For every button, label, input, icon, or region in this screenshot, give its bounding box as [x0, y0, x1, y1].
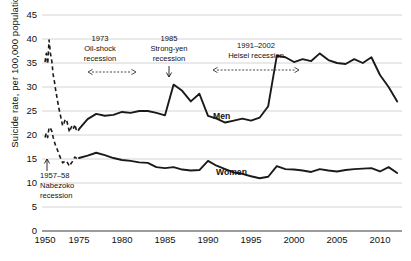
- x-tick-label: 1985: [145, 234, 185, 245]
- annotation-oil-shock-line2: recession: [63, 54, 137, 64]
- annotation-nabezoko-line1: Nabezoko: [40, 181, 74, 191]
- annotation-oil-shock: 1973 Oil-shock recession: [63, 34, 137, 65]
- plot-area: [0, 0, 411, 261]
- x-tick-label: 2000: [274, 234, 314, 245]
- y-tick-label: 15: [11, 153, 37, 164]
- x-tick-label: 1975: [59, 234, 99, 245]
- y-tick-label: 35: [11, 57, 37, 68]
- annotation-nabezoko-year: 1957–58: [40, 171, 74, 181]
- annotation-strong-yen-year: 1985: [138, 34, 200, 44]
- annotation-strong-yen-line1: Strong-yen: [138, 44, 200, 54]
- y-tick-label: 40: [11, 33, 37, 44]
- x-tick-label: 2005: [317, 234, 357, 245]
- y-tick-label: 25: [11, 105, 37, 116]
- x-tick-label: 1980: [102, 234, 142, 245]
- y-tick-label: 45: [11, 9, 37, 20]
- suicide-rate-chart: Suicide rate, per 100,000 population 051…: [0, 0, 411, 261]
- x-tick-label: 2010: [360, 234, 400, 245]
- annotation-heisei: 1991–2002 Heisei recession: [210, 41, 302, 61]
- annotation-nabezoko-line2: recession: [40, 191, 74, 201]
- annotation-strong-yen: 1985 Strong-yen recession: [138, 34, 200, 65]
- y-tick-label: 20: [11, 129, 37, 140]
- series-label-men: Men: [213, 111, 230, 121]
- annotation-markers-layer: [44, 66, 299, 171]
- annotation-oil-shock-line1: Oil-shock: [63, 44, 137, 54]
- y-tick-label: 5: [11, 201, 37, 212]
- annotation-heisei-year: 1991–2002: [210, 41, 302, 51]
- series-label-women: Women: [216, 167, 247, 177]
- annotation-strong-yen-line2: recession: [138, 54, 200, 64]
- y-tick-label: 30: [11, 81, 37, 92]
- annotation-nabezoko: 1957–58 Nabezoko recession: [40, 171, 74, 202]
- y-tick-label: 10: [11, 177, 37, 188]
- annotation-oil-shock-year: 1973: [63, 34, 137, 44]
- annotation-heisei-line1: Heisei recession: [210, 51, 302, 61]
- x-tick-label: 1995: [231, 234, 271, 245]
- x-tick-label: 1990: [188, 234, 228, 245]
